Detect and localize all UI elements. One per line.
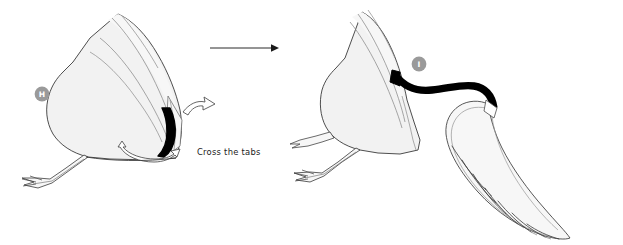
diagram-canvas: H Cross the tabs [0, 0, 623, 245]
step-label-h: H [35, 87, 50, 102]
step-label-i-badge [412, 57, 427, 72]
step-label-i: I [412, 57, 427, 72]
origami-diagram: H Cross the tabs [0, 0, 623, 245]
step-label-h-badge [35, 87, 50, 102]
caption-cross-the-tabs: Cross the tabs [197, 147, 261, 157]
